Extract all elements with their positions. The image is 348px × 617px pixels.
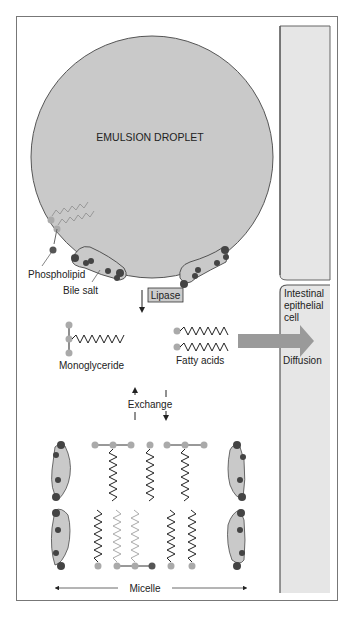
fat-digestion-diagram: EMULSION DROPLET Phospholipid Bile salt … <box>0 0 348 617</box>
exchange-label: Exchange <box>128 399 173 410</box>
cell-label-line2: epithelial <box>284 300 323 311</box>
fatty-acids-label: Fatty acids <box>176 355 224 366</box>
cell-label-line1: Intestinal <box>284 288 324 299</box>
bile-salt-label: Bile salt <box>63 285 98 296</box>
phospholipid-label: Phospholipid <box>28 269 85 280</box>
droplet-label: EMULSION DROPLET <box>96 131 204 143</box>
diffusion-label: Diffusion <box>283 355 322 366</box>
micelle-label: Micelle <box>129 583 161 594</box>
monoglyceride-label: Monoglyceride <box>59 360 124 371</box>
emulsion-droplet <box>31 36 273 278</box>
lipase-label: Lipase <box>151 290 181 301</box>
cell-label-line3: cell <box>284 312 299 323</box>
